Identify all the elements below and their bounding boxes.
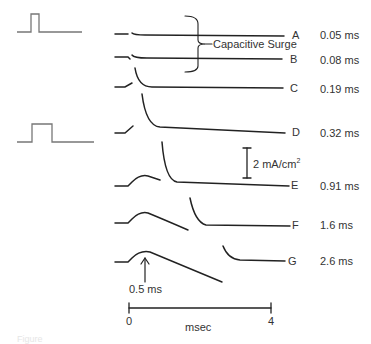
trace-label-c: C [290,83,298,94]
trace-label-f: F [292,220,299,231]
arrow-label: 0.5 ms [129,284,162,295]
duration-e: 0.91 ms [320,181,359,192]
duration-c: 0.19 ms [320,84,359,95]
time-axis [129,303,271,313]
trace-d [115,94,285,133]
axis-start-label: 0 [126,316,132,327]
trace-label-e: E [291,180,298,191]
axis-unit-label: msec [185,322,211,333]
duration-b: 0.08 ms [320,55,359,66]
trace-label-b: B [290,54,297,65]
duration-f: 1.6 ms [320,220,353,231]
capacitive-brace-icon [185,16,205,72]
trace-label-d: D [292,127,300,138]
trace-label-g: G [288,256,297,267]
short-pulse-icon [17,14,82,32]
trace-f [115,198,290,230]
arrow-up-icon [141,258,149,282]
long-pulse-icon [17,124,94,142]
trace-c [115,68,283,88]
trace-a [115,33,284,36]
duration-d: 0.32 ms [320,128,359,139]
figure-caption: Figure [17,334,43,344]
scale-bar-label: 2 mA/cm2 [253,157,300,170]
capacitive-surge-label: Capacitive Surge [213,39,297,50]
scale-bar-icon [243,148,251,178]
axis-end-label: 4 [268,316,274,327]
duration-g: 2.6 ms [320,256,353,267]
duration-a: 0.05 ms [320,30,359,41]
